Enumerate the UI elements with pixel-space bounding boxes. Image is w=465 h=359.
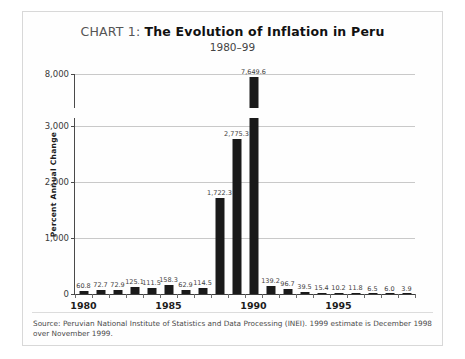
bar-value-label: 6.0 xyxy=(384,285,394,293)
bar-group[interactable]: 72.9 xyxy=(109,74,126,294)
bar-group[interactable]: 2,775.3 xyxy=(228,74,245,294)
x-axis-tick xyxy=(194,294,195,298)
bar[interactable] xyxy=(164,285,173,294)
bar-group[interactable]: 11.8 xyxy=(347,74,364,294)
x-axis-tick xyxy=(109,294,110,298)
bar[interactable] xyxy=(266,286,275,294)
bar-value-label: 10.2 xyxy=(331,284,345,292)
bar[interactable] xyxy=(300,292,309,294)
bar-group[interactable]: 1,722.3 xyxy=(211,74,228,294)
bar[interactable] xyxy=(249,118,258,294)
y-axis-tick-label: 0 xyxy=(64,289,69,299)
chart-title-block: CHART 1: The Evolution of Inflation in P… xyxy=(23,24,442,54)
y-axis-tick-label: 2,000 xyxy=(45,177,69,187)
bar[interactable] xyxy=(147,288,156,294)
x-axis-tick xyxy=(211,294,212,298)
x-axis-tick xyxy=(415,294,416,298)
bar[interactable] xyxy=(317,293,326,295)
bar-group[interactable]: 72.7 xyxy=(92,74,109,294)
bar-value-label: 72.9 xyxy=(110,281,124,289)
bar[interactable] xyxy=(351,293,360,295)
bar-group[interactable]: 62.9 xyxy=(177,74,194,294)
chart-figure: CHART 1: The Evolution of Inflation in P… xyxy=(22,11,443,346)
x-axis-tick xyxy=(313,294,314,298)
plot-area: 01,0002,0003,0008,00060.872.772.9125.111… xyxy=(75,74,415,294)
bar-value-label: 96.7 xyxy=(280,280,294,288)
y-axis-tick-label: 3,000 xyxy=(45,121,69,131)
x-axis-tick xyxy=(245,294,246,298)
x-axis-tick xyxy=(177,294,178,298)
source-note: Source: Peruvian National Institute of S… xyxy=(33,319,432,339)
bar[interactable] xyxy=(334,293,343,295)
chart-title-main: The Evolution of Inflation in Peru xyxy=(144,24,384,39)
bar-value-label: 125.1 xyxy=(125,278,144,286)
bar-value-label: 72.7 xyxy=(93,281,107,289)
bar-group[interactable]: 6.0 xyxy=(381,74,398,294)
bar-value-label: 11.8 xyxy=(348,284,362,292)
y-axis-tick-label: 8,000 xyxy=(45,69,69,79)
bar[interactable] xyxy=(181,290,190,294)
bar-group[interactable]: 114.5 xyxy=(194,74,211,294)
bar[interactable] xyxy=(368,293,377,295)
bar-value-label: 15.4 xyxy=(314,284,328,292)
x-axis-tick xyxy=(398,294,399,298)
x-axis-tick xyxy=(92,294,93,298)
chart-subtitle: 1980–99 xyxy=(23,41,442,54)
x-axis-tick xyxy=(228,294,229,298)
bar-group[interactable]: 6.5 xyxy=(364,74,381,294)
bar[interactable] xyxy=(96,290,105,294)
bar[interactable] xyxy=(385,293,394,295)
x-axis-tick-label: 1990 xyxy=(240,300,266,311)
x-axis-tick xyxy=(126,294,127,298)
bar-group[interactable]: 139.2 xyxy=(262,74,279,294)
source-divider xyxy=(32,312,433,313)
bar-value-label: 60.8 xyxy=(76,282,90,290)
y-axis-tick-label: 1,000 xyxy=(45,233,69,243)
x-axis-tick xyxy=(364,294,365,298)
bar-cap-above-axis-break[interactable] xyxy=(249,77,258,108)
bar-value-label: 3.9 xyxy=(401,285,411,293)
x-axis-tick xyxy=(143,294,144,298)
bar[interactable] xyxy=(198,288,207,294)
chart-number-label: CHART 1: xyxy=(80,24,144,39)
bar-group[interactable]: 10.2 xyxy=(330,74,347,294)
bar-value-label: 114.5 xyxy=(193,279,212,287)
bar[interactable] xyxy=(79,291,88,294)
bar-group[interactable]: 15.4 xyxy=(313,74,330,294)
x-axis-tick xyxy=(75,294,76,298)
bar-value-label: 111.5 xyxy=(142,279,161,287)
bar-group[interactable]: 111.5 xyxy=(143,74,160,294)
bar-group[interactable]: 125.1 xyxy=(126,74,143,294)
bar-group[interactable]: 3.9 xyxy=(398,74,415,294)
x-axis-tick xyxy=(347,294,348,298)
x-axis-tick-label: 1995 xyxy=(325,300,351,311)
x-axis-tick xyxy=(160,294,161,298)
x-axis-tick xyxy=(296,294,297,298)
bar[interactable] xyxy=(283,289,292,294)
x-axis-tick xyxy=(381,294,382,298)
bar-group[interactable]: 60.8 xyxy=(75,74,92,294)
x-axis-tick-label: 1980 xyxy=(70,300,96,311)
x-axis-tick xyxy=(330,294,331,298)
bar-group[interactable]: 7,649.6 xyxy=(245,74,262,294)
bar[interactable] xyxy=(130,287,139,294)
bar[interactable] xyxy=(113,290,122,294)
bar-group[interactable]: 96.7 xyxy=(279,74,296,294)
bar-group[interactable]: 39.5 xyxy=(296,74,313,294)
bar[interactable] xyxy=(215,198,224,294)
x-axis-tick-label: 1985 xyxy=(155,300,181,311)
bar-value-label: 62.9 xyxy=(178,281,192,289)
bar-value-label: 6.5 xyxy=(367,285,377,293)
bar[interactable] xyxy=(232,139,241,294)
x-axis-tick xyxy=(279,294,280,298)
x-axis-tick xyxy=(262,294,263,298)
bar-value-label: 139.2 xyxy=(261,277,280,285)
bar-value-label: 158.3 xyxy=(159,276,178,284)
bar-group[interactable]: 158.3 xyxy=(160,74,177,294)
chart-title: CHART 1: The Evolution of Inflation in P… xyxy=(23,24,442,39)
bar-value-label: 39.5 xyxy=(297,283,311,291)
